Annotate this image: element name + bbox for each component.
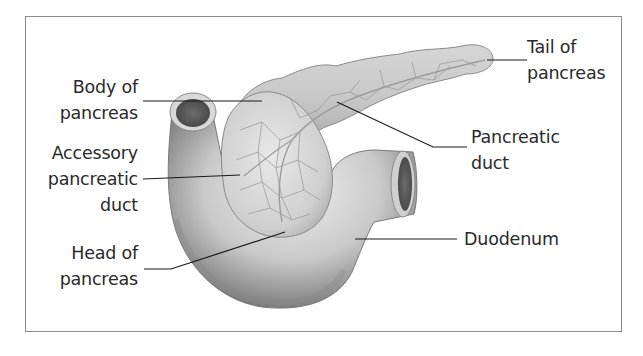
label-tail-of-pancreas: Tail of pancreas: [527, 34, 617, 86]
label-line: pancreas: [40, 100, 138, 126]
duodenum-lumen-upper: [176, 99, 210, 127]
label-accessory-pancreatic-duct: Accessory pancreatic duct: [30, 140, 138, 218]
duodenum-lumen-right: [398, 157, 412, 211]
label-line: Tail of: [527, 34, 617, 60]
label-line: Body of: [40, 74, 138, 100]
label-head-of-pancreas: Head of pancreas: [40, 240, 138, 292]
label-line: duct: [471, 150, 581, 176]
label-line: Duodenum: [464, 226, 574, 252]
label-pancreatic-duct: Pancreatic duct: [471, 124, 581, 176]
label-line: duct: [30, 192, 138, 218]
label-line: pancreatic: [30, 166, 138, 192]
label-line: Pancreatic: [471, 124, 581, 150]
label-line: pancreas: [527, 60, 617, 86]
label-line: Accessory: [30, 140, 138, 166]
label-duodenum: Duodenum: [464, 226, 574, 252]
label-body-of-pancreas: Body of pancreas: [40, 74, 138, 126]
label-line: pancreas: [40, 266, 138, 292]
label-line: Head of: [40, 240, 138, 266]
